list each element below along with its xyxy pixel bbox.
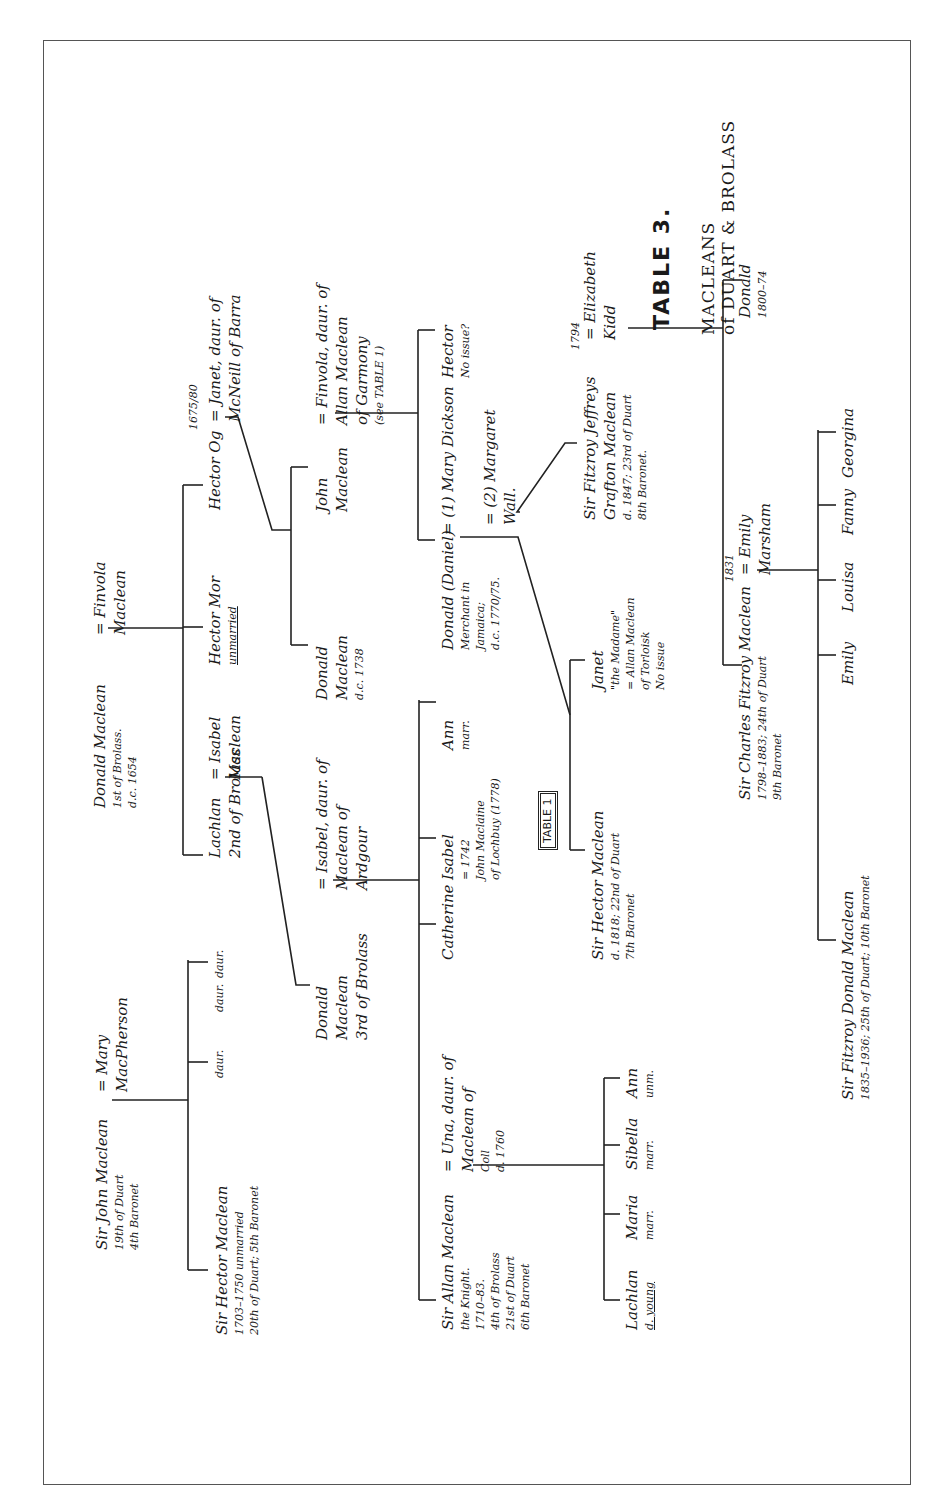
spouse-finvola-garmony: = Finvola, daur. of Allan Maclean of Gar…	[312, 284, 387, 425]
chart-subtitle: MACLEANS of DUART & BROLASS	[698, 120, 738, 335]
spouse-finvola-maclean: = Finvola Maclean	[90, 562, 130, 635]
spouse-una-coll: = Una, daur. of Maclean of Coll d. 1760	[438, 1056, 508, 1172]
person-john-maclean: John Maclean	[312, 447, 352, 512]
person-sibella: Sibella marr.	[622, 1118, 657, 1170]
person-lachlan-young: Lachlan d. young	[622, 1270, 657, 1330]
person-sir-allan-knight: Sir Allan Maclean the Knight. 1710–83. 4…	[438, 1194, 533, 1330]
spouse-isabel-ardgour: = Isabel, daur. of Maclean of Ardgour	[312, 759, 372, 890]
person-donald-1st-brolass: Donald Maclean 1st of Brolass. d.c. 1654	[90, 684, 140, 808]
chart-title: TABLE 3.	[652, 207, 672, 330]
table-label: TABLE 3.	[652, 207, 672, 330]
person-hector-no-issue: Hector No issue?	[438, 324, 473, 378]
person-hector-mor: Hector Mor unmarried	[205, 576, 240, 665]
person-emily: Emily	[838, 642, 858, 685]
person-louisa: Louisa	[838, 562, 858, 612]
person-georgina: Georgina	[838, 408, 858, 478]
spouse-janet-mcneill: = Janet, daur. of McNeill of Barra	[205, 294, 245, 422]
person-fanny: Fanny	[838, 489, 858, 535]
subtitle-line1: MACLEANS	[698, 120, 718, 335]
spouse-emily-marsham: = Emily Marsham	[735, 503, 775, 575]
person-donald-1800: Donald 1800–74	[735, 264, 770, 318]
person-ann-unmarried: Ann unm.	[622, 1068, 657, 1098]
spouse-isabel-maclean: = Isabel Maclean	[205, 715, 245, 780]
daughter-3: daur.	[212, 950, 227, 978]
person-sir-fitzroy-jeffreys: Sir Fitzroy Jeffreys Grafton Maclean d. …	[580, 377, 650, 520]
daughter-1: daur.	[212, 1050, 227, 1078]
person-isabel-lochbuy: Isabel = 1742 John Maclaine of Lochbuy (…	[438, 778, 503, 880]
person-donald-daniel: Donald (Daniel) Merchant in Jamaica; d.c…	[438, 530, 503, 650]
person-maria: Maria marr.	[622, 1195, 657, 1240]
person-donald-3rd-brolass: Donald Maclean 3rd of Brolass	[312, 933, 372, 1040]
person-ann-married: Ann marr.	[438, 720, 473, 750]
person-sir-john: Sir John Maclean 19th of Duart 4th Baron…	[92, 1119, 142, 1250]
spouse-mary-dickson: = (1) Mary Dickson	[438, 386, 458, 535]
spouse-elizabeth-kidd: = Elizabeth Kidd	[580, 251, 620, 340]
person-catherine: Catherine	[438, 885, 458, 961]
person-donald-1738: Donald Maclean d.c. 1738	[312, 635, 367, 700]
spouse-mary-macpherson: = Mary MacPherson	[92, 997, 132, 1092]
person-sir-hector-22nd: Sir Hector Maclean d. 1818; 22nd of Duar…	[588, 811, 638, 960]
spouse-margaret-wall: = (2) Margaret Wall.	[480, 410, 520, 525]
person-hector-og: Hector Og	[205, 431, 225, 510]
marriage-date-hector-og: 1675/80	[186, 384, 201, 430]
person-sir-charles: Sir Charles Fitzroy Maclean 1798–1883; 2…	[735, 586, 785, 800]
table-1-reference[interactable]: TABLE 1	[536, 791, 558, 850]
person-sir-fitzroy-donald: Sir Fitzroy Donald Maclean 1835–1936; 25…	[838, 875, 873, 1100]
person-janet-the-madame: Janet "the Madame" = Allan Maclean of To…	[588, 598, 668, 691]
person-sir-hector-20th: Sir Hector Maclean 1703–1750 unmarried 2…	[212, 1186, 262, 1335]
daughter-2: daur.	[212, 984, 227, 1012]
